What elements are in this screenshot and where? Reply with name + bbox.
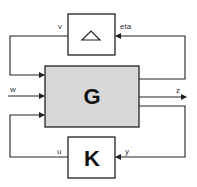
label-z: z bbox=[176, 86, 180, 95]
label-y: y bbox=[125, 147, 129, 156]
label-u: u bbox=[57, 147, 61, 156]
controller-block-k: K bbox=[68, 137, 115, 178]
plant-label: G bbox=[83, 84, 100, 109]
label-w: w bbox=[9, 85, 16, 94]
label-v: v bbox=[58, 22, 62, 31]
lft-block-diagram: G K v eta w z u y bbox=[0, 0, 197, 187]
controller-label: K bbox=[84, 146, 100, 171]
label-eta: eta bbox=[120, 22, 132, 31]
plant-block-g: G bbox=[45, 66, 139, 127]
delta-block bbox=[68, 14, 115, 55]
